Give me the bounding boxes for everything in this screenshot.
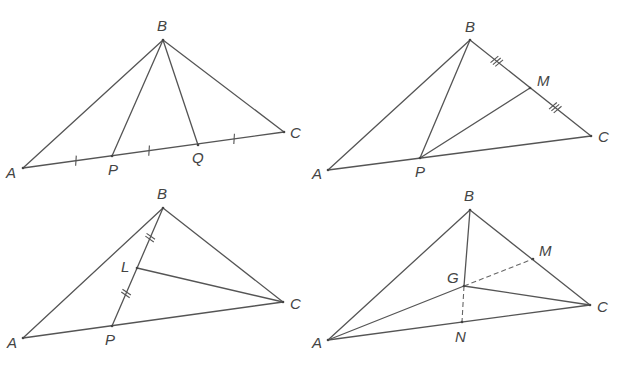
point-l [136, 267, 139, 270]
point-a [22, 167, 25, 170]
point-c [283, 131, 286, 134]
point-label-p: P [108, 161, 118, 178]
point-b [162, 39, 165, 42]
point-label-b: B [464, 187, 474, 204]
point-a [327, 339, 330, 342]
figure-midpoint-bp: ABCPL [6, 185, 301, 351]
point-m [532, 258, 535, 261]
point-b [469, 39, 472, 42]
segment-bc [163, 40, 284, 132]
segment-ag [328, 286, 464, 340]
point-label-g: G [447, 269, 459, 286]
point-label-q: Q [192, 149, 204, 166]
figure-centroid: ABCGMN [311, 187, 608, 351]
point-label-b: B [157, 185, 167, 202]
point-a [327, 169, 330, 172]
point-label-a: A [6, 334, 17, 351]
point-label-l: L [121, 258, 129, 275]
segment-ac [23, 132, 284, 168]
segment-ab [328, 40, 470, 170]
point-c [589, 304, 592, 307]
figure-midpoint-bc: ABCPM [311, 18, 609, 182]
point-g [463, 285, 466, 288]
point-label-p: P [105, 331, 115, 348]
segment-ab [23, 208, 163, 338]
segment-bc [470, 210, 590, 305]
point-p [111, 325, 114, 328]
point-p [419, 157, 422, 160]
point-label-m: M [537, 72, 550, 89]
point-label-b: B [157, 17, 167, 34]
point-b [162, 207, 165, 210]
segment-gc [464, 286, 590, 305]
point-label-c: C [598, 128, 609, 145]
tick-mark [234, 134, 235, 144]
point-q [197, 144, 200, 147]
tick-mark [149, 146, 150, 156]
point-label-a: A [311, 165, 322, 182]
point-label-c: C [597, 298, 608, 315]
point-label-c: C [290, 124, 301, 141]
segment-bq [163, 40, 198, 145]
tick-mark [76, 156, 77, 166]
segment-ab [23, 40, 163, 168]
segment-ac [23, 302, 283, 338]
point-label-p: P [415, 163, 425, 180]
dashed-segment-gn [462, 286, 464, 322]
point-label-a: A [5, 164, 16, 181]
point-m [529, 87, 532, 90]
point-label-a: A [311, 334, 322, 351]
segment-ac [328, 136, 591, 170]
point-c [590, 135, 593, 138]
geometry-diagram-canvas: ABCPQ ABCPM ABCPL ABCGMN [0, 0, 625, 365]
point-n [461, 321, 464, 324]
point-a [22, 337, 25, 340]
segment-bg [464, 210, 470, 286]
dashed-segment-gm [464, 259, 533, 286]
point-b [469, 209, 472, 212]
point-label-n: N [455, 328, 466, 345]
segment-bp [112, 40, 163, 156]
segment-pm [420, 88, 530, 158]
point-c [282, 301, 285, 304]
point-p [111, 155, 114, 158]
figure-trisected-base: ABCPQ [5, 17, 301, 181]
point-label-m: M [539, 242, 552, 259]
point-label-c: C [290, 295, 301, 312]
segment-bp [420, 40, 470, 158]
point-label-b: B [465, 18, 475, 35]
